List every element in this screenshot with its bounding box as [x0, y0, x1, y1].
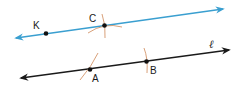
point-b	[144, 59, 149, 64]
label-c: C	[89, 13, 96, 24]
line-l	[21, 50, 229, 78]
label-line-l: ℓ	[209, 38, 214, 50]
label-k: K	[33, 20, 40, 31]
parallel-line-construction-diagram: K C A B ℓ	[0, 0, 235, 87]
point-k	[44, 31, 49, 36]
label-b: B	[150, 65, 157, 76]
point-a	[88, 67, 93, 72]
label-a: A	[92, 73, 99, 84]
point-c	[102, 23, 107, 28]
